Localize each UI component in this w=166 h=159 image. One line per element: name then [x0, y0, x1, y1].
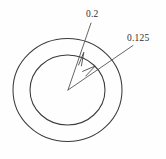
inner-diameter-arrowhead-icon	[83, 66, 96, 76]
outer-diameter-leader-line	[68, 23, 91, 90]
outer-circle	[13, 39, 122, 142]
outer-diameter-label: 0.2	[86, 10, 98, 20]
concentric-circles-diagram	[0, 0, 166, 159]
inner-diameter-label: 0.125	[127, 34, 149, 44]
inner-circle	[30, 55, 105, 125]
inner-diameter-leader-line	[68, 46, 133, 91]
technical-drawing-canvas: 0.2 0.125	[0, 0, 166, 159]
outer-diameter-arrowhead-icon	[79, 52, 84, 66]
